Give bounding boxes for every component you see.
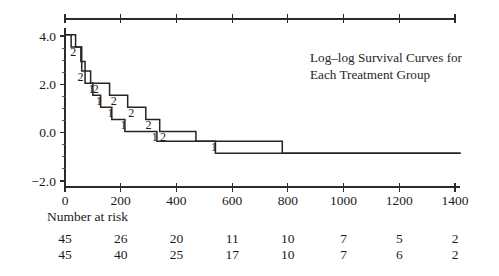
x-tick-label: 1400 [442,193,469,208]
y-tick-label: −2.0 [32,174,57,189]
curve-label-1: 1 [152,130,158,144]
risk-value: 45 [58,247,72,262]
log-log-survival-chart: −2.00.02.04.0 0200400600800100012001400 … [0,0,499,276]
x-tick-label: 0 [62,193,69,208]
risk-table-heading: Number at risk [47,209,128,224]
curve-label-1: 1 [211,140,217,154]
y-tick-label: 2.0 [39,77,56,92]
curve-label-1: 1 [121,118,127,132]
y-axis [60,28,66,188]
x-tick-label: 200 [111,193,132,208]
x-axis [65,183,460,192]
curve-label-2: 2 [78,70,84,84]
top-axis [65,14,455,23]
y-tick-label: 0.0 [39,125,56,140]
curve-label-2: 2 [93,82,99,96]
curve-label-1: 1 [96,94,102,108]
chart-title-line-2: Each Treatment Group [310,67,431,82]
chart-canvas: −2.00.02.04.0 0200400600800100012001400 … [0,0,499,276]
curve-label-2: 2 [160,130,166,144]
curve-label-2: 2 [111,94,117,108]
chart-title-line-1: Log–log Survival Curves for [310,50,463,65]
x-tick-labels: 0200400600800100012001400 [62,193,469,208]
x-tick-label: 400 [166,193,187,208]
risk-value: 6 [396,247,403,262]
x-tick-label: 800 [278,193,299,208]
risk-table: 45262011107524540251710762 [58,231,458,262]
x-tick-label: 600 [222,193,243,208]
risk-value: 45 [58,231,72,246]
risk-value: 7 [340,231,347,246]
risk-value: 40 [114,247,128,262]
curve-label-2: 2 [146,118,152,132]
risk-value: 10 [281,247,295,262]
risk-value: 7 [340,247,347,262]
y-tick-labels: −2.00.02.04.0 [32,29,57,189]
curve-label-2: 2 [128,106,134,120]
risk-value: 11 [226,231,239,246]
risk-value: 2 [452,231,459,246]
curve-label-1: 1 [107,106,113,120]
risk-value: 17 [225,247,239,262]
y-tick-label: 4.0 [39,29,56,44]
x-tick-label: 1000 [330,193,357,208]
x-tick-label: 1200 [386,193,413,208]
risk-value: 5 [396,231,403,246]
risk-value: 26 [114,231,128,246]
risk-value: 2 [452,247,459,262]
curve-group-markers: 1111112222222 [70,45,217,153]
risk-value: 10 [281,231,295,246]
risk-value: 25 [170,247,184,262]
risk-value: 20 [170,231,184,246]
curve-label-2: 2 [70,45,76,59]
